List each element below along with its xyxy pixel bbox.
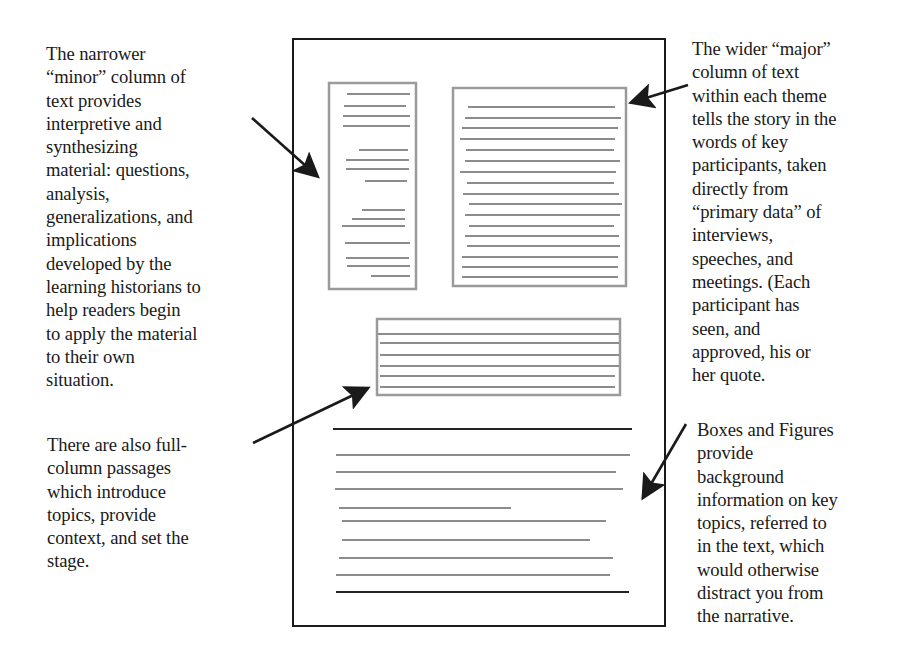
- annotation-major-column: The wider “major” column of text within …: [692, 37, 907, 386]
- annotation-minor-column: The narrower “minor” column of text prov…: [46, 42, 256, 391]
- boxes-figures-region: [333, 429, 632, 592]
- arrow-to-minor-column: [252, 118, 316, 175]
- annotation-boxes-and-figures: Boxes and Figures provide background inf…: [697, 418, 907, 628]
- minor-column-box: [329, 83, 416, 289]
- full-column-passage-box: [377, 319, 620, 395]
- major-column-text-lines: [460, 107, 622, 277]
- boxes-figures-text-lines: [335, 455, 630, 575]
- arrow-to-major-column: [633, 85, 688, 102]
- major-column-box: [453, 88, 626, 286]
- annotation-full-column-passages: There are also full- column passages whi…: [47, 433, 247, 573]
- full-column-text-lines: [378, 334, 619, 387]
- arrow-to-full-column: [253, 389, 366, 443]
- minor-column-text-lines: [342, 94, 410, 276]
